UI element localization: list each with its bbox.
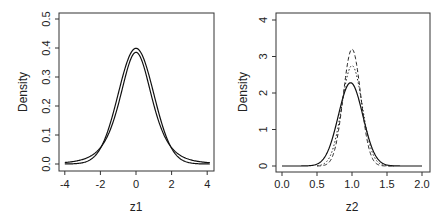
y-tick-label: 0.4 bbox=[40, 40, 52, 55]
x-tick-label: 0.0 bbox=[274, 178, 289, 190]
y-tick-label: 0 bbox=[257, 163, 269, 169]
y-tick-label: 0.1 bbox=[40, 127, 52, 142]
y-tick-label: 3 bbox=[257, 53, 269, 59]
y-tick-label: 0.2 bbox=[40, 98, 52, 113]
x-tick-label: -2 bbox=[96, 178, 106, 190]
y-tick-label: 0.3 bbox=[40, 69, 52, 84]
x-tick-label: 1.5 bbox=[379, 178, 394, 190]
left-curve-b bbox=[65, 52, 210, 162]
x-tick-label: 0.5 bbox=[309, 178, 324, 190]
x-tick-label: 2 bbox=[169, 178, 175, 190]
right-y-label: Density bbox=[236, 72, 250, 112]
left-x-label: z1 bbox=[130, 200, 143, 214]
y-tick-label: 2 bbox=[257, 90, 269, 96]
y-tick-label: 4 bbox=[257, 17, 269, 23]
left-curve-a bbox=[65, 48, 210, 164]
chart-canvas: -4-2024 0.00.10.20.30.40.5 z1 Density 0.… bbox=[0, 0, 446, 223]
x-tick-label: 1.0 bbox=[344, 178, 359, 190]
left-x-ticks: -4-2024 bbox=[60, 171, 210, 190]
right-curve-solid bbox=[282, 83, 422, 166]
x-tick-label: 2.0 bbox=[414, 178, 429, 190]
left-plot: -4-2024 0.00.10.20.30.40.5 z1 Density bbox=[16, 11, 214, 214]
left-y-label: Density bbox=[16, 72, 30, 112]
right-x-label: z2 bbox=[346, 200, 359, 214]
y-tick-label: 0.5 bbox=[40, 11, 52, 26]
left-plot-frame bbox=[59, 13, 214, 171]
x-tick-label: -4 bbox=[60, 178, 70, 190]
y-tick-label: 1 bbox=[257, 126, 269, 132]
right-x-ticks: 0.00.51.01.52.0 bbox=[274, 172, 429, 190]
x-tick-label: 4 bbox=[204, 178, 210, 190]
left-y-ticks: 0.00.10.20.30.40.5 bbox=[40, 11, 59, 171]
x-tick-label: 0 bbox=[133, 178, 139, 190]
right-y-ticks: 01234 bbox=[257, 17, 276, 169]
right-plot-frame bbox=[276, 13, 430, 172]
y-tick-label: 0.0 bbox=[40, 156, 52, 171]
right-plot: 0.00.51.01.52.0 01234 z2 Density bbox=[236, 13, 430, 214]
